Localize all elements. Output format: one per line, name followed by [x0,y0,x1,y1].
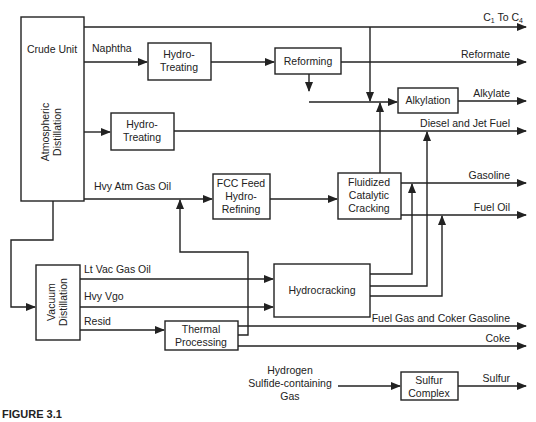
fuel-gas-coker-gasoline-label: Fuel Gas and Coker Gasoline [372,312,510,324]
sulfur-complex-box: Sulfur Complex [401,372,458,400]
svg-text:Complex: Complex [408,387,450,399]
reformate-label: Reformate [461,48,510,60]
svg-text:Gas: Gas [280,390,299,402]
resid-label: Resid [84,315,111,327]
gasoline-label: Gasoline [469,169,511,181]
svg-text:Vacuum: Vacuum [45,283,57,321]
svg-text:Hydro-: Hydro- [225,190,257,202]
svg-text:Refining: Refining [222,203,261,215]
fuel-oil-label: Fuel Oil [474,201,510,213]
hvy-atm-gas-oil-label: Hvy Atm Gas Oil [94,180,171,192]
svg-text:Treating: Treating [160,61,198,73]
crude-unit-box: Crude Unit Atmospheric Distillation [21,17,84,201]
refinery-flow-diagram: Crude Unit Atmospheric Distillation C1 T… [0,0,536,422]
figure-label: FIGURE 3.1 [2,408,62,420]
fcc-feed-hydrorefining-box: FCC Feed Hydro- Refining [213,174,270,219]
svg-text:Hydrogen: Hydrogen [267,364,313,376]
svg-text:Sulfur: Sulfur [415,374,443,386]
crude-unit-label: Crude Unit [27,43,77,55]
distillation-label: Distillation [51,108,63,156]
svg-text:Treating: Treating [123,131,161,143]
hydrotreating-1-box: Hydro- Treating [148,43,211,80]
svg-text:Hydro-: Hydro- [126,118,158,130]
svg-text:Reforming: Reforming [284,55,333,67]
hydrocracker-to-fuel-oil-line [370,216,442,296]
sulfur-product-label: Sulfur [483,372,511,384]
c1-c4-product-label: C1 To C4 [483,11,523,24]
svg-text:Sulfide-containing: Sulfide-containing [248,377,332,389]
reforming-box: Reforming [275,48,341,74]
svg-text:Hydro-: Hydro- [163,48,195,60]
atmospheric-label: Atmospheric [39,103,51,161]
hydrotreating-2-box: Hydro- Treating [111,113,174,150]
svg-text:Catalytic: Catalytic [349,189,389,201]
svg-text:Fluidized: Fluidized [348,176,390,188]
alkylate-label: Alkylate [473,87,510,99]
coker-gas-oil-recycle-line [180,200,248,335]
svg-text:Hydrocracking: Hydrocracking [288,284,355,296]
alkylation-box: Alkylation [398,88,458,113]
lt-vac-gas-oil-label: Lt Vac Gas Oil [84,263,151,275]
vacuum-distillation-box: Vacuum Distillation [36,265,80,340]
svg-text:Processing: Processing [175,336,227,348]
svg-text:Distillation: Distillation [57,278,69,326]
diesel-jet-label: Diesel and Jet Fuel [420,117,510,129]
svg-text:FCC Feed: FCC Feed [217,177,266,189]
coke-label: Coke [485,332,510,344]
svg-text:Thermal: Thermal [182,323,221,335]
svg-text:Alkylation: Alkylation [406,94,451,106]
naphtha-label: Naphtha [92,42,132,54]
hvy-vgo-label: Hvy Vgo [84,290,124,302]
svg-text:Cracking: Cracking [348,202,390,214]
hydrocracking-box: Hydrocracking [274,264,370,317]
fcc-box: Fluidized Catalytic Cracking [338,173,401,219]
thermal-processing-box: Thermal Processing [165,321,238,350]
